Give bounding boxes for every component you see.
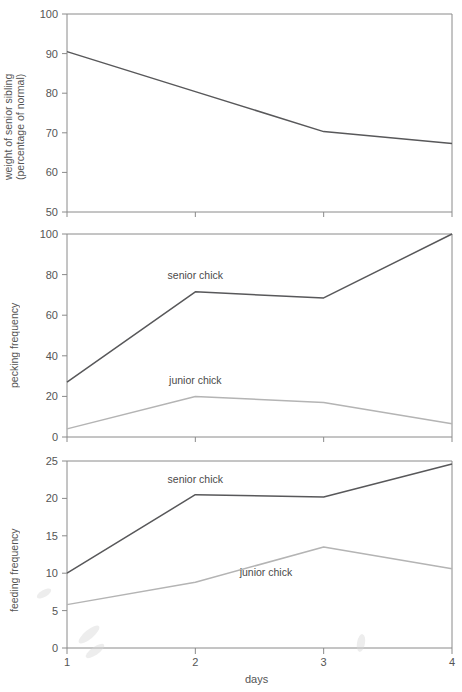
y-tick-label: 5 xyxy=(52,605,58,617)
x-tick-label: 4 xyxy=(449,656,455,668)
panel-feeding: feeding frequency 05101520251234senior c… xyxy=(0,445,462,692)
y-tick-label: 25 xyxy=(46,455,58,467)
y-tick-label: 100 xyxy=(40,228,58,240)
y-tick-label: 20 xyxy=(46,492,58,504)
y-axis-label-panel1: weight of senior sibling (percentage of … xyxy=(2,52,28,202)
panel-pecking: pecking frequency 020406080100senior chi… xyxy=(0,225,462,445)
y-tick-label: 90 xyxy=(46,48,58,60)
x-tick-label: 2 xyxy=(192,656,198,668)
plot-area-panel2: 020406080100senior chickjunior chick xyxy=(0,225,462,445)
series-annotation: senior chick xyxy=(168,473,224,485)
series-annotation: junior chick xyxy=(168,374,222,386)
y-axis-label-line1: weight of senior sibling xyxy=(2,74,14,180)
y-axis-label-line1: feeding frequency xyxy=(8,528,20,611)
series-annotation: senior chick xyxy=(168,269,224,281)
series-line xyxy=(67,396,452,428)
y-axis-label-line2: (percentage of normal) xyxy=(14,74,26,180)
y-tick-label: 0 xyxy=(52,431,58,443)
series-line xyxy=(67,234,452,382)
series-line xyxy=(67,464,452,573)
y-axis-label-panel2: pecking frequency xyxy=(8,280,24,410)
y-tick-label: 0 xyxy=(52,642,58,654)
y-tick-label: 40 xyxy=(46,350,58,362)
panel-weight: weight of senior sibling (percentage of … xyxy=(0,0,462,225)
x-tick-label: 3 xyxy=(321,656,327,668)
plot-area-panel1: 5060708090100 xyxy=(0,0,462,225)
y-tick-label: 10 xyxy=(46,567,58,579)
x-axis-title: days xyxy=(245,673,268,685)
y-tick-label: 100 xyxy=(40,8,58,20)
y-tick-label: 70 xyxy=(46,127,58,139)
y-tick-label: 80 xyxy=(46,269,58,281)
series-line xyxy=(67,52,452,144)
y-tick-label: 80 xyxy=(46,87,58,99)
y-axis-label-line1: pecking frequency xyxy=(8,302,20,387)
y-tick-label: 20 xyxy=(46,390,58,402)
y-tick-label: 50 xyxy=(46,206,58,218)
y-tick-label: 60 xyxy=(46,309,58,321)
y-tick-label: 15 xyxy=(46,530,58,542)
series-annotation: junior chick xyxy=(239,566,293,578)
y-tick-label: 60 xyxy=(46,166,58,178)
x-tick-label: 1 xyxy=(64,656,70,668)
y-axis-label-panel3: feeding frequency xyxy=(8,505,24,635)
plot-area-panel3: 05101520251234senior chickjunior chick xyxy=(0,445,462,692)
